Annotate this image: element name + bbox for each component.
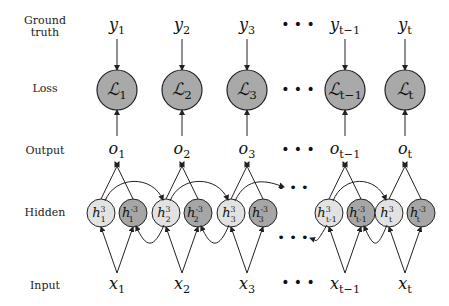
arrow-icon [245, 162, 263, 199]
output-label: ot [398, 139, 413, 161]
arrow-icon [182, 227, 198, 273]
backward-recurrent-arrow [201, 225, 229, 243]
input-label: x3 [239, 274, 255, 296]
ellipsis-icon: • • • [281, 16, 315, 32]
arrow-icon [247, 227, 263, 273]
forward-recurrent-arrow [105, 181, 163, 201]
forward-recurrent-arrow [333, 181, 386, 201]
output-label: o2 [174, 139, 191, 161]
ground-truth-label: yt [397, 15, 412, 37]
output-label: o3 [239, 139, 256, 161]
backward-recurrent-arrow [136, 225, 164, 243]
ellipsis-icon: • • • [281, 274, 315, 290]
arrow-icon [101, 227, 117, 273]
arrow-icon [117, 227, 133, 273]
birnn-diagram: y1ℒ1o1h31h-31x1y2ℒ2o2h32h-32x2y3ℒ3o3h33h… [0, 0, 449, 306]
arrow-icon [329, 162, 347, 199]
columns: y1ℒ1o1h31h-31x1y2ℒ2o2h32h-32x2y3ℒ3o3h33h… [87, 15, 435, 296]
arrow-icon [343, 162, 361, 199]
arrow-icon [389, 162, 407, 199]
ground-truth-label: y2 [173, 15, 190, 37]
ground-truth-label: y3 [238, 15, 255, 37]
arrow-icon [231, 227, 247, 273]
arrow-icon [115, 162, 133, 199]
arrow-icon [403, 162, 421, 199]
input-label: xt−1 [330, 274, 360, 296]
ellipsis-icon: • • • [281, 81, 315, 97]
arrow-icon [329, 227, 345, 273]
input-label: xt [398, 274, 412, 296]
arrow-icon [180, 162, 198, 199]
arrow-icon [166, 227, 182, 273]
ground-truth-label: y1 [108, 15, 125, 37]
output-label: ot−1 [330, 139, 361, 161]
input-label: x1 [109, 274, 125, 296]
arrow-icon [231, 162, 249, 199]
ellipsis-icon: • • • [277, 180, 308, 195]
ellipsis-icon: • • • [277, 230, 308, 245]
backward-recurrent-arrow [310, 225, 327, 240]
ellipsis-icon: • • • [281, 141, 315, 157]
input-label: x2 [174, 274, 190, 296]
arrow-icon [101, 162, 119, 199]
arrow-icon [405, 227, 421, 273]
forward-recurrent-arrow [170, 181, 228, 201]
arrow-icon [166, 162, 184, 199]
arrow-icon [389, 227, 405, 273]
arrow-icon [345, 227, 361, 273]
output-label: o1 [109, 139, 126, 161]
ground-truth-label: yt−1 [329, 15, 360, 37]
backward-recurrent-arrow [364, 225, 387, 243]
